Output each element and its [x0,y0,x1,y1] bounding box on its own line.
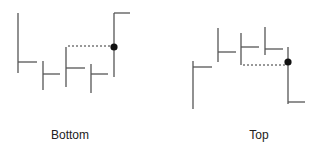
top-panel [193,27,305,109]
bottom-label: Bottom [51,128,89,142]
bar [193,61,212,109]
bar [91,64,108,93]
pivot-dot [110,43,117,50]
bar [43,61,60,90]
bar [18,13,37,73]
bottom-panel [18,13,130,93]
top-label: Top [249,128,268,142]
swing-diagram [0,0,318,151]
bar [66,47,85,87]
bar [265,27,283,55]
bar [218,28,236,62]
bar [241,33,259,65]
bar [288,47,305,104]
pivot-dot [284,58,291,65]
